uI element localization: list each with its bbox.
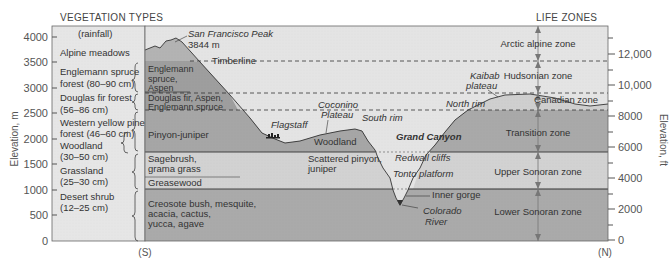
south-rim-label: South rim bbox=[362, 112, 403, 123]
veg-woodland-line2: (30–50 cm) bbox=[60, 151, 108, 162]
right-tick-6000: 6000 bbox=[618, 141, 642, 153]
rainfall-label: (rainfall) bbox=[78, 28, 112, 39]
north-rim-label: North rim bbox=[446, 98, 485, 109]
peak-name-label: San Francisco Peak bbox=[188, 28, 274, 39]
left-tick-2500: 2500 bbox=[24, 107, 48, 119]
vegetation-life-zone-diagram: VEGETATION TYPES LIFE ZONES bbox=[0, 0, 670, 270]
woodland-label: Woodland bbox=[314, 136, 357, 147]
left-tick-3500: 3500 bbox=[24, 56, 48, 68]
zone-transition: Transition zone bbox=[506, 127, 571, 138]
veg-grassland-line1: Grassland bbox=[60, 165, 103, 176]
sagebrush-line2: grama grass bbox=[148, 163, 201, 174]
veg-englemann-line2: forest (80–90 cm) bbox=[60, 78, 134, 89]
zone-lower-sonoran: Lower Sonoran zone bbox=[494, 206, 582, 217]
veg-yellow-pine-line1: Western yellow pine bbox=[60, 117, 145, 128]
veg-woodland-line1: Woodland bbox=[60, 140, 103, 151]
right-tick-10000: 10,000 bbox=[618, 79, 652, 91]
right-tick-2000: 2000 bbox=[618, 203, 642, 215]
veg-desert-shrub-line1: Desert shrub bbox=[60, 191, 114, 202]
right-tick-4000: 4000 bbox=[618, 172, 642, 184]
vegetation-types-header: VEGETATION TYPES bbox=[60, 12, 163, 23]
englemann-zone-line1: Englemann bbox=[148, 64, 194, 74]
zone-hudsonian: Hudsonian zone bbox=[504, 70, 573, 81]
south-marker: (S) bbox=[138, 247, 151, 258]
timberline-label: Timberline bbox=[212, 55, 256, 66]
left-tick-4000: 4000 bbox=[24, 31, 48, 43]
flagstaff-label: Flagstaff bbox=[271, 119, 309, 130]
creosote-line3: yucca, agave bbox=[148, 218, 204, 229]
right-tick-0: 0 bbox=[618, 234, 624, 246]
zone-arctic-alpine: Arctic alpine zone bbox=[501, 38, 576, 49]
north-marker: (N) bbox=[598, 247, 612, 258]
peak-elevation-label: 3844 m bbox=[188, 39, 220, 50]
veg-desert-shrub-line2: (12–25 cm) bbox=[60, 202, 108, 213]
left-tick-1000: 1000 bbox=[24, 184, 48, 196]
scattered-pinyon-line2: juniper bbox=[307, 163, 337, 174]
redwall-cliffs-label: Redwall cliffs bbox=[395, 152, 451, 163]
left-tick-3000: 3000 bbox=[24, 82, 48, 94]
pinyon-juniper-label: Pinyon-juniper bbox=[148, 129, 209, 140]
veg-grassland-line2: (25–30 cm) bbox=[60, 176, 108, 187]
zone-canadian: Canadian zone bbox=[534, 94, 598, 105]
coconino-label-line2: Plateau bbox=[321, 109, 354, 120]
greasewood-label: Greasewood bbox=[148, 177, 202, 188]
veg-yellow-pine-line2: forest (46–60 cm) bbox=[60, 128, 134, 139]
left-axis-label: Elevation, m bbox=[9, 111, 20, 166]
right-tick-12000: 12,000 bbox=[618, 48, 652, 60]
veg-alpine-meadows: Alpine meadows bbox=[60, 47, 130, 58]
left-tick-0: 0 bbox=[42, 235, 48, 247]
zone-upper-sonoran: Upper Sonoran zone bbox=[494, 166, 582, 177]
right-axis-label: Elevation, ft bbox=[658, 114, 669, 166]
colorado-river-line2: River bbox=[425, 216, 448, 227]
englemann-zone-line3: Aspen bbox=[148, 83, 174, 93]
kaibab-label-line2: plateau bbox=[465, 80, 498, 91]
right-tick-8000: 8000 bbox=[618, 110, 642, 122]
veg-douglas-line2: (56–86 cm) bbox=[60, 104, 108, 115]
veg-englemann-line1: Englemann spruce bbox=[60, 66, 139, 77]
life-zones-header: LIFE ZONES bbox=[536, 12, 597, 23]
inner-gorge-label: Inner gorge bbox=[432, 189, 481, 200]
left-tick-1500: 1500 bbox=[24, 158, 48, 170]
veg-douglas-line1: Douglas fir forest bbox=[60, 92, 132, 103]
douglas-zone-line2: Englemann spruce bbox=[148, 102, 223, 112]
left-axis: 4000 3500 3000 2500 2000 1500 1000 500 0… bbox=[9, 31, 57, 247]
left-tick-500: 500 bbox=[30, 209, 48, 221]
tonto-platform-label: Tonto platform bbox=[393, 168, 453, 179]
grand-canyon-label: Grand Canyon bbox=[396, 131, 462, 142]
left-tick-2000: 2000 bbox=[24, 133, 48, 145]
colorado-river-line1: Colorado bbox=[423, 205, 462, 216]
right-axis: 12,000 10,000 8000 6000 4000 2000 0 Elev… bbox=[608, 38, 669, 246]
